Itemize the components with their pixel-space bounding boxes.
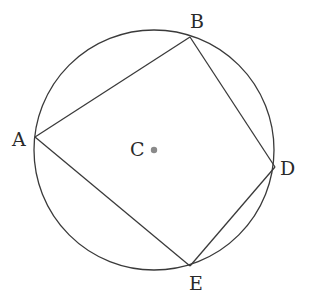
edge-a-b xyxy=(35,37,190,137)
edge-b-d xyxy=(190,37,275,167)
vertex-label-e: E xyxy=(189,272,203,294)
vertex-label-a: A xyxy=(11,128,26,150)
diagram-canvas: A B C D E xyxy=(0,0,315,302)
edge-d-e xyxy=(190,167,275,266)
vertex-label-d: D xyxy=(280,157,295,179)
edge-e-a xyxy=(35,137,190,266)
vertex-label-b: B xyxy=(190,10,204,32)
center-point-dot xyxy=(151,147,157,153)
diagram-svg: A B C D E xyxy=(0,0,315,302)
center-label-c: C xyxy=(130,138,145,160)
